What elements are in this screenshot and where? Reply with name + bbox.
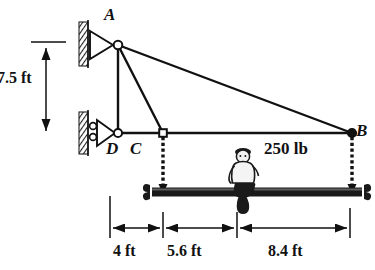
joint-label-c: C xyxy=(130,140,141,157)
person-eye-left xyxy=(239,155,241,157)
horizontal-dimension-chain xyxy=(110,196,350,238)
horizontal-dimension-label-2: 5.6 ft xyxy=(167,243,202,259)
joint-label-d: D xyxy=(106,140,118,157)
person-boots xyxy=(237,196,249,214)
joint-b xyxy=(348,129,356,137)
person-eye-right xyxy=(244,155,246,157)
suspended-beam xyxy=(143,184,371,200)
load-label: 250 lb xyxy=(264,140,308,157)
vertical-dimension-7-5ft xyxy=(31,42,66,131)
pin-support-triangle-a xyxy=(90,31,113,59)
wall-hatching-upper xyxy=(79,22,88,66)
seated-person xyxy=(229,148,259,214)
joint-label-b: B xyxy=(356,122,367,139)
beam-end-hook-left xyxy=(143,184,150,200)
joint-d xyxy=(114,129,122,137)
roller-wheel-upper xyxy=(90,123,97,130)
joint-c xyxy=(159,129,167,137)
truss-members xyxy=(118,45,352,133)
joint-label-a: A xyxy=(104,6,115,23)
wall-hatching-lower xyxy=(79,112,88,154)
horizontal-dimension-label-3: 8.4 ft xyxy=(268,243,303,259)
truss-diagram xyxy=(0,0,375,270)
joint-a xyxy=(114,41,123,50)
vertical-dimension-label: 7.5 ft xyxy=(0,70,32,86)
member-a-b xyxy=(118,45,352,133)
person-torso xyxy=(232,162,255,184)
beam-end-hook-right xyxy=(364,184,371,200)
hanger-chain-c xyxy=(159,137,168,194)
horizontal-dimension-label-1: 4 ft xyxy=(113,243,136,259)
hanger-chain-b xyxy=(348,137,357,194)
beam-highlight xyxy=(152,189,362,191)
roller-wheel-lower xyxy=(90,134,97,141)
wall-support-a xyxy=(79,20,113,68)
